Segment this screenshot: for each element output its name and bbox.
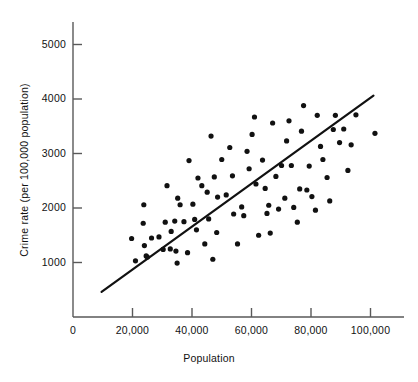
scatter-plot-figure: Crime rate (per 100,000 population) 1000…: [0, 0, 418, 382]
data-point: [205, 190, 210, 195]
y-tick-label: 4000: [0, 92, 66, 104]
data-point: [345, 168, 350, 173]
data-point: [149, 235, 154, 240]
data-point: [145, 254, 150, 259]
data-point: [299, 129, 304, 134]
data-point: [186, 158, 191, 163]
data-point: [349, 142, 354, 147]
data-point: [268, 230, 273, 235]
data-point: [192, 217, 197, 222]
data-point: [247, 166, 252, 171]
y-tick-label: 3000: [0, 147, 66, 159]
data-point: [208, 133, 213, 138]
data-point: [168, 246, 173, 251]
data-point: [212, 174, 217, 179]
x-axis-ticks: [133, 308, 371, 317]
data-point: [309, 194, 314, 199]
y-tick-label: 2000: [0, 201, 66, 213]
data-point: [169, 229, 174, 234]
data-point: [241, 213, 246, 218]
data-point: [172, 218, 177, 223]
data-point: [279, 163, 284, 168]
data-point: [333, 113, 338, 118]
data-point: [318, 144, 323, 149]
data-point: [320, 157, 325, 162]
data-point: [175, 196, 180, 201]
data-point: [331, 127, 336, 132]
data-point: [161, 247, 166, 252]
data-point: [327, 198, 332, 203]
data-point: [276, 206, 281, 211]
data-point: [210, 257, 215, 262]
data-point: [141, 202, 146, 207]
regression-line: [102, 96, 374, 292]
data-point: [295, 220, 300, 225]
data-point: [235, 241, 240, 246]
data-point: [263, 186, 268, 191]
data-point: [284, 138, 289, 143]
data-point: [249, 132, 254, 137]
y-axis-title: Crime rate (per 100,000 population): [18, 83, 30, 256]
x-tick-label: 100,000: [331, 324, 411, 336]
data-point: [313, 208, 318, 213]
data-point: [337, 140, 342, 145]
data-point: [324, 175, 329, 180]
data-point: [230, 173, 235, 178]
data-point: [260, 157, 265, 162]
data-point: [129, 236, 134, 241]
data-point: [214, 230, 219, 235]
data-point: [195, 175, 200, 180]
data-point: [224, 192, 229, 197]
data-point: [252, 114, 257, 119]
data-point: [133, 258, 138, 263]
data-point: [266, 203, 271, 208]
data-point: [178, 202, 183, 207]
data-point: [372, 131, 377, 136]
data-point: [163, 220, 168, 225]
data-point: [199, 183, 204, 188]
data-point: [304, 187, 309, 192]
data-point: [353, 112, 358, 117]
data-point: [219, 157, 224, 162]
data-point: [156, 234, 161, 239]
data-point: [282, 196, 287, 201]
data-point: [270, 120, 275, 125]
data-point: [227, 145, 232, 150]
axis-lines: [73, 22, 404, 317]
data-point: [194, 227, 199, 232]
data-point: [202, 241, 207, 246]
data-point: [215, 195, 220, 200]
data-point: [239, 204, 244, 209]
regression-line-segment: [102, 96, 374, 292]
data-point: [173, 248, 178, 253]
data-point: [307, 163, 312, 168]
data-point: [273, 174, 278, 179]
data-point: [341, 126, 346, 131]
data-point: [256, 233, 261, 238]
data-point: [291, 205, 296, 210]
data-point: [301, 103, 306, 108]
data-point: [164, 183, 169, 188]
data-point: [181, 219, 186, 224]
data-point: [315, 113, 320, 118]
data-point: [289, 163, 294, 168]
data-points: [129, 103, 378, 266]
data-point: [297, 186, 302, 191]
data-point: [244, 149, 249, 154]
data-point: [141, 221, 146, 226]
y-tick-label: 1000: [0, 256, 66, 268]
data-point: [231, 211, 236, 216]
y-tick-label: 5000: [0, 38, 66, 50]
data-point: [175, 260, 180, 265]
y-axis-ticks: [73, 45, 82, 263]
x-axis-title: Population: [0, 352, 418, 364]
data-point: [142, 243, 147, 248]
data-point: [264, 211, 269, 216]
data-point: [253, 181, 258, 186]
data-point: [190, 202, 195, 207]
data-point: [185, 250, 190, 255]
data-point: [286, 118, 291, 123]
data-point: [206, 216, 211, 221]
